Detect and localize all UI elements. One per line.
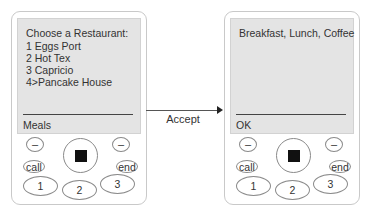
call-button[interactable]: call [23, 160, 45, 173]
transition-arrow [146, 110, 218, 111]
menu-item-hot-tex[interactable]: 2 Hot Tex [26, 52, 128, 64]
screen-content: Choose a Restaurant: 1 Eggs Port 2 Hot T… [26, 27, 128, 88]
key-2[interactable]: 2 [275, 180, 310, 200]
screen-title: Breakfast, Lunch, Coffee [239, 27, 354, 39]
key-1[interactable]: 1 [236, 176, 271, 196]
end-button[interactable]: end [116, 160, 138, 173]
select-button[interactable] [276, 138, 311, 173]
soft-key-right[interactable]: – [325, 137, 343, 152]
soft-key-left[interactable]: – [26, 137, 44, 152]
key-1[interactable]: 1 [23, 176, 58, 196]
phone-left: Choose a Restaurant: 1 Eggs Port 2 Hot T… [11, 11, 147, 205]
stop-square-icon [288, 150, 300, 162]
transition-label: Accept [160, 113, 206, 125]
screen-divider [23, 114, 133, 115]
select-button[interactable] [63, 138, 98, 173]
end-button[interactable]: end [329, 160, 351, 173]
arrow-head-icon [217, 106, 223, 114]
screen-content: Breakfast, Lunch, Coffee [239, 27, 354, 40]
phone-right: Breakfast, Lunch, Coffee OK – – call end… [224, 11, 360, 205]
phone-screen: Choose a Restaurant: 1 Eggs Port 2 Hot T… [17, 18, 141, 134]
screen-divider [236, 114, 346, 115]
soft-key-left[interactable]: – [239, 137, 257, 152]
key-3[interactable]: 3 [313, 174, 348, 194]
softkey-label: OK [236, 119, 251, 131]
soft-key-right[interactable]: – [112, 137, 130, 152]
key-2[interactable]: 2 [62, 180, 97, 200]
key-3[interactable]: 3 [100, 174, 135, 194]
phone-screen: Breakfast, Lunch, Coffee OK [230, 18, 354, 134]
softkey-label: Meals [23, 119, 51, 131]
menu-item-pancake-house[interactable]: 4>Pancake House [26, 76, 128, 88]
menu-item-capricio[interactable]: 3 Capricio [26, 64, 128, 76]
menu-item-eggs-port[interactable]: 1 Eggs Port [26, 40, 128, 52]
screen-title: Choose a Restaurant: [26, 27, 128, 39]
stop-square-icon [75, 150, 87, 162]
call-button[interactable]: call [236, 160, 258, 173]
